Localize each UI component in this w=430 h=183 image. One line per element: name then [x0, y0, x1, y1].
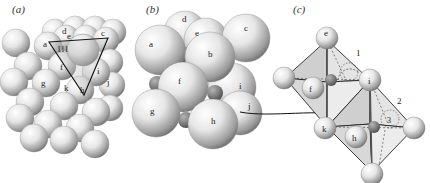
atom-label-d: d [182, 14, 187, 24]
panel-b-atom-cluster [132, 11, 270, 149]
atom-label-a: a [149, 39, 153, 49]
atom-label-f: f [178, 76, 181, 86]
atom-label-h: h [80, 85, 85, 95]
plane-label-111: 111 [57, 45, 68, 54]
interstitial-atom-1 [325, 74, 337, 86]
vertex-label-h: h [352, 133, 357, 143]
atom-label-h: h [211, 116, 216, 126]
interstitial-atom-2 [368, 121, 380, 133]
atom-label-a: a [43, 39, 47, 49]
octahedron-label-2: 2 [397, 96, 402, 106]
octahedron-label-1: 1 [356, 48, 361, 58]
rotation-label-3: 3 [387, 116, 391, 125]
atom-label-e: e [67, 31, 71, 41]
atom-label-j: j [106, 77, 110, 87]
atom-label-c: c [101, 28, 105, 38]
atom-label-g: g [150, 106, 155, 116]
vertex-label-f: f [309, 84, 312, 94]
atom-label-e: e [195, 28, 199, 38]
figure-canvas: a c d e 111 f g h i j k a b c d e f [0, 0, 430, 183]
atom-label-f: f [60, 62, 63, 72]
vertex-label-e: e [324, 28, 328, 38]
panel-a-cube-cluster [0, 16, 126, 158]
atom-label-j: j [247, 101, 251, 111]
panel-c-octahedra [273, 27, 425, 183]
atom-label-b: b [208, 49, 213, 59]
atom-label-k: k [64, 83, 69, 93]
vertex-label-k: k [322, 124, 327, 134]
atom-label-c: c [244, 23, 248, 33]
atom-label-g: g [41, 78, 46, 88]
